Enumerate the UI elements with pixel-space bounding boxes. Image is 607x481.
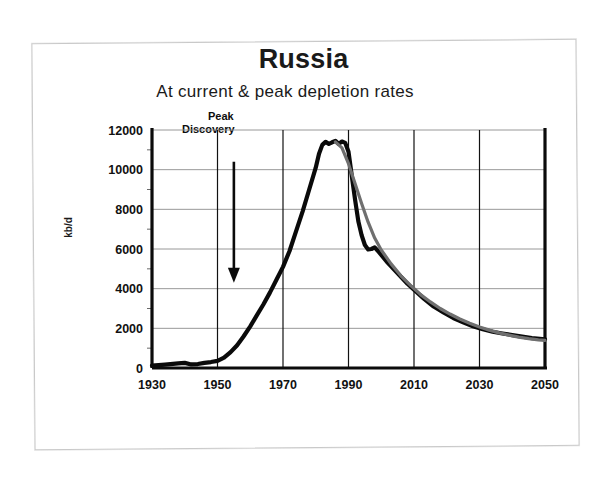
x-tick-label-2030: 2030: [466, 378, 494, 392]
x-axis-tick-labels: 1930195019701990201020302050: [138, 378, 559, 392]
x-tick-label-1950: 1950: [204, 378, 232, 392]
y-tick-label-10000: 10000: [108, 163, 143, 177]
screenshot-canvas: Russia At current & peak depletion rates…: [0, 0, 607, 481]
y-tick-label-2000: 2000: [115, 322, 143, 336]
y-tick-label-12000: 12000: [108, 124, 143, 138]
x-tick-label-2010: 2010: [400, 378, 428, 392]
y-tick-label-8000: 8000: [115, 203, 143, 217]
slide-content: Russia At current & peak depletion rates…: [0, 0, 607, 481]
x-tick-label-1930: 1930: [138, 378, 166, 392]
depletion-line-chart: 020004000600080001000012000 193019501970…: [0, 0, 607, 481]
down-arrow-icon: [228, 162, 240, 283]
y-axis-tick-labels: 020004000600080001000012000: [108, 124, 143, 376]
y-tick-label-6000: 6000: [115, 243, 143, 257]
x-tick-label-1990: 1990: [335, 378, 363, 392]
x-tick-label-2050: 2050: [531, 378, 559, 392]
y-tick-label-4000: 4000: [115, 282, 143, 296]
arrow-head: [228, 268, 240, 283]
x-tick-label-1970: 1970: [269, 378, 297, 392]
y-tick-label-0: 0: [136, 362, 143, 376]
